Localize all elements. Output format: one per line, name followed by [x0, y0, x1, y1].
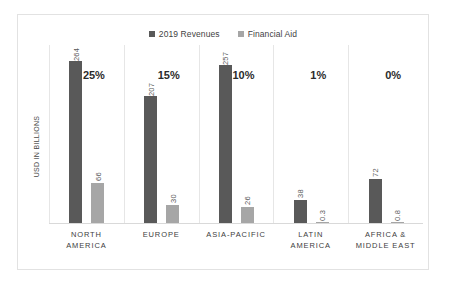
bar-wrapper: 72: [369, 45, 382, 223]
x-axis-category-label: EUROPE: [124, 229, 199, 261]
bar-wrapper: 0.3: [316, 45, 329, 223]
bar-value-label: 0.3: [318, 210, 327, 221]
plot-area: 25%2646615%2073010%257261%380.30%720.8: [49, 45, 423, 223]
bar-pair: 720.8: [349, 45, 423, 223]
x-axis-category-label: NORTHAMERICA: [49, 229, 124, 261]
chart-container: 2019 Revenues Financial Aid USD IN BILLI…: [17, 14, 429, 270]
bar-wrapper: 30: [166, 45, 179, 223]
bar-wrapper: 257: [219, 45, 232, 223]
bar-value-label: 26: [243, 196, 252, 205]
x-axis-category-label: ASIA-PACIFIC: [199, 229, 274, 261]
bar-wrapper: 66: [91, 45, 104, 223]
legend-swatch-financial-aid: [238, 31, 244, 37]
category-group: 15%20730: [125, 45, 200, 223]
bar-revenue[interactable]: [144, 96, 157, 223]
x-axis-category-label: AFRICA &MIDDLE EAST: [348, 229, 423, 261]
bar-revenue[interactable]: [369, 179, 382, 223]
bar-pair: 25726: [200, 45, 274, 223]
bar-pair: 380.3: [274, 45, 348, 223]
legend-label-financial-aid: Financial Aid: [248, 29, 298, 39]
bar-wrapper: 207: [144, 45, 157, 223]
bar-pair: 26466: [50, 45, 124, 223]
bar-value-label: 264: [71, 48, 80, 61]
legend-label-revenues: 2019 Revenues: [159, 29, 220, 39]
bar-financial-aid[interactable]: [166, 205, 179, 223]
y-axis-title-text: USD IN BILLIONS: [34, 115, 41, 177]
bar-revenue[interactable]: [69, 61, 82, 223]
bar-wrapper: 264: [69, 45, 82, 223]
legend-item-revenues[interactable]: 2019 Revenues: [149, 29, 220, 39]
bar-value-label: 0.8: [393, 210, 402, 221]
bar-wrapper: 26: [241, 45, 254, 223]
legend-swatch-revenues: [149, 31, 155, 37]
bar-wrapper: 38: [294, 45, 307, 223]
legend-item-financial-aid[interactable]: Financial Aid: [238, 29, 298, 39]
x-axis-category-label: LATINAMERICA: [273, 229, 348, 261]
bar-value-label: 72: [371, 168, 380, 177]
bar-value-label: 66: [93, 172, 102, 181]
bar-financial-aid[interactable]: [241, 207, 254, 223]
bar-revenue[interactable]: [219, 65, 232, 223]
bar-revenue[interactable]: [294, 200, 307, 223]
bar-value-label: 207: [146, 83, 155, 96]
y-axis-title: USD IN BILLIONS: [30, 71, 44, 221]
chart-legend: 2019 Revenues Financial Aid: [18, 29, 428, 39]
bar-pair: 20730: [125, 45, 199, 223]
bar-value-label: 38: [296, 189, 305, 198]
category-group: 1%380.3: [274, 45, 349, 223]
category-group: 25%26466: [49, 45, 125, 223]
category-group: 10%25726: [200, 45, 275, 223]
category-group: 0%720.8: [349, 45, 423, 223]
bar-financial-aid[interactable]: [91, 183, 104, 224]
x-axis: NORTHAMERICAEUROPEASIA-PACIFICLATINAMERI…: [49, 223, 423, 261]
bar-wrapper: 0.8: [391, 45, 404, 223]
bar-value-label: 257: [221, 52, 230, 65]
bar-value-label: 30: [168, 194, 177, 203]
